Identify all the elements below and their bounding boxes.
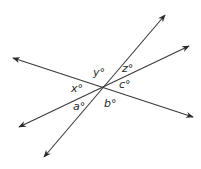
- angle-label-x: x°: [70, 82, 83, 95]
- angle-label-a: a°: [73, 100, 85, 113]
- angle-label-y: y°: [92, 66, 105, 79]
- angle-label-c: c°: [119, 78, 131, 91]
- line-shallow-up: [19, 46, 189, 127]
- intersecting-lines-diagram: y° z° x° c° a° b°: [0, 0, 201, 169]
- angle-label-z: z°: [121, 62, 133, 75]
- angle-label-b: b°: [104, 97, 116, 110]
